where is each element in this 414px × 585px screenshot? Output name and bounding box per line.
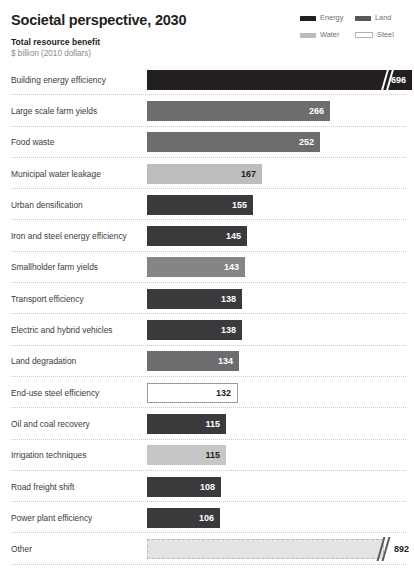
bar-row[interactable]: Smallholder farm yields143 [0,252,414,283]
legend-swatch-icon [355,32,373,38]
bar-row[interactable]: Food waste252 [0,127,414,158]
legend-item-land: Land [355,14,412,22]
bar-row-label: Building energy efficiency [11,75,106,85]
bar-row[interactable]: Iron and steel energy efficiency145 [0,220,414,251]
bar-area: 108 [147,477,221,497]
bar-row-label: Large scale farm yields [11,106,97,116]
legend-item-steel: Steel [355,31,412,39]
bar-value-label: 134 [218,356,239,366]
legend-item-energy: Energy [300,14,355,22]
bar-energy[interactable]: 155 [147,195,253,215]
bar-area: 155 [147,195,253,215]
bar-row-label: Food waste [11,137,54,147]
bar-value-label: 108 [200,482,221,492]
bar-area: 266 [147,101,330,121]
bar-row-label: Land degradation [11,356,76,366]
bar-row[interactable]: Urban densification155 [0,189,414,220]
legend-label: Energy [320,14,343,22]
bar-steel[interactable]: 132 [147,383,238,403]
bar-row[interactable]: Land degradation134 [0,346,414,377]
bar-row[interactable]: Municipal water leakage167 [0,158,414,189]
bar-land[interactable]: 143 [147,257,245,277]
bar-area: 138 [147,289,242,309]
bar-row[interactable]: Road freight shift108 [0,471,414,502]
legend-label: Land [375,14,391,22]
bar-row[interactable]: Transport efficiency138 [0,283,414,314]
bar-area: 132 [147,383,238,403]
bar-chart-rows: Building energy efficiency696Large scale… [0,64,414,565]
legend-swatch-icon [300,16,316,21]
bar-row-label: Smallholder farm yields [11,262,98,272]
bar-value-label: 115 [205,450,226,460]
bar-energy[interactable]: 115 [147,414,226,434]
bar-row[interactable]: Oil and coal recovery115 [0,408,414,439]
bar-row[interactable]: Power plant efficiency106 [0,502,414,533]
bar-value-label: 143 [224,262,245,272]
legend-swatch-icon [355,16,371,21]
bar-other[interactable] [147,539,384,559]
bar-energy[interactable]: 696 [147,70,412,90]
bar-land[interactable]: 266 [147,101,330,121]
bar-value-label: 106 [199,513,220,523]
bar-row-label: Other [11,544,32,554]
bar-row-label: Road freight shift [11,482,74,492]
bar-value-label: 115 [205,419,226,429]
legend-label: Water [320,31,339,39]
bar-row-label: Transport efficiency [11,294,84,304]
bar-area: 115 [147,414,226,434]
bar-energy[interactable]: 108 [147,477,221,497]
bar-row-label: Power plant efficiency [11,513,92,523]
bar-value-label: 145 [226,231,247,241]
bar-value-label: 138 [221,325,242,335]
bar-water[interactable]: 115 [147,445,226,465]
bar-row-label: Oil and coal recovery [11,419,90,429]
bar-area: 892 [147,539,384,559]
bar-row[interactable]: Irrigation techniques115 [0,440,414,471]
bar-value-label: 167 [241,169,262,179]
bar-area: 143 [147,257,245,277]
bar-row[interactable]: Electric and hybrid vehicles138 [0,314,414,345]
bar-water[interactable]: 167 [147,164,262,184]
bar-row-label: End-use steel efficiency [11,388,99,398]
bar-area: 145 [147,226,247,246]
bar-row[interactable]: Building energy efficiency696 [0,64,414,95]
row-separator [11,564,406,565]
bar-row-label: Urban densification [11,200,83,210]
bar-land[interactable]: 134 [147,351,239,371]
bar-value-label: 696 [391,75,412,85]
legend-swatch-icon [300,33,316,38]
bar-value-label: 252 [299,137,320,147]
bar-area: 167 [147,164,262,184]
legend-item-water: Water [300,31,355,39]
bar-area: 696 [147,70,412,90]
legend-label: Steel [377,31,394,39]
bar-row-label: Irrigation techniques [11,450,86,460]
bar-energy[interactable]: 145 [147,226,247,246]
chart-header: Societal perspective, 2030 Total resourc… [0,0,414,62]
chart-legend: EnergyLandWaterSteel [300,14,412,39]
subtitle-units: $ billion (2010 dollars) [11,48,404,59]
bar-row[interactable]: Other892 [0,533,414,564]
bar-area: 252 [147,132,320,152]
bar-land[interactable]: 252 [147,132,320,152]
bar-row[interactable]: Large scale farm yields266 [0,95,414,126]
bar-area: 138 [147,320,242,340]
bar-value-label: 266 [309,106,330,116]
bar-value-label: 155 [232,200,253,210]
bar-value-label: 892 [394,544,409,554]
bar-value-label: 132 [216,388,237,398]
bar-area: 115 [147,445,226,465]
bar-row-label: Iron and steel energy efficiency [11,231,127,241]
bar-value-label: 138 [221,294,242,304]
bar-energy[interactable]: 138 [147,289,242,309]
bar-row[interactable]: End-use steel efficiency132 [0,377,414,408]
bar-energy[interactable]: 138 [147,320,242,340]
bar-area: 106 [147,508,220,528]
bar-row-label: Municipal water leakage [11,169,101,179]
bar-row-label: Electric and hybrid vehicles [11,325,112,335]
bar-energy[interactable]: 106 [147,508,220,528]
subtitle-block: Total resource benefit $ billion (2010 d… [11,37,404,59]
bar-area: 134 [147,351,239,371]
